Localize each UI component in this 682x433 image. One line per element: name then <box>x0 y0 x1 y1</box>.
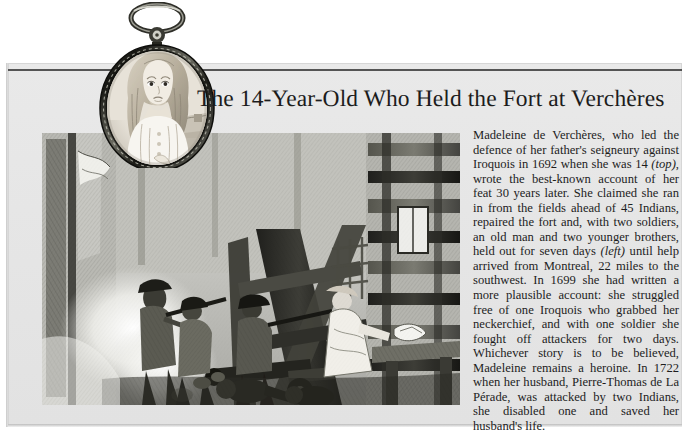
body-segment: until help arrived from Montreal, 22 mil… <box>473 244 679 433</box>
body-segment: Madeleine de Verchères, who led the defe… <box>473 128 679 171</box>
article-body: Madeleine de Verchères, who led the defe… <box>473 128 679 433</box>
body-segment: , wrote the best-known account of her fe… <box>473 157 679 258</box>
fort-defence-engraving <box>42 133 460 405</box>
scanned-page-canvas: The 14-Year-Old Who Held the Fort at Ver… <box>0 0 682 433</box>
page-title: The 14-Year-Old Who Held the Fort at Ver… <box>197 86 682 113</box>
body-segment-italic-top: (top) <box>651 157 675 171</box>
locket-portrait <box>98 2 216 168</box>
body-segment-italic-left: (left) <box>600 244 624 258</box>
